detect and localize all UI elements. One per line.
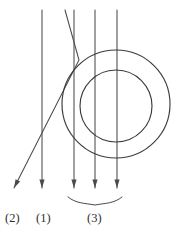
label-2: (2) [5, 211, 20, 225]
arrowhead-icon-ray-2 [14, 179, 20, 188]
label-1: (1) [36, 211, 51, 225]
arrowhead-icon-ray-1 [39, 180, 44, 189]
inner-circle [80, 70, 152, 142]
ray-diagram-figure: (2)(1)(3) [0, 0, 176, 235]
ray-path-ray-2 [14, 10, 79, 188]
label-3: (3) [87, 211, 102, 225]
arrowhead-icon-ray-5 [114, 180, 119, 189]
ray-bundle [14, 10, 120, 188]
group-brace-icon [68, 197, 122, 205]
concentric-lens-circles [62, 50, 170, 158]
arrowhead-icon-ray-3 [71, 180, 76, 189]
ray-diagram-canvas: (2)(1)(3) [0, 0, 176, 235]
figure-labels: (2)(1)(3) [5, 211, 102, 225]
arrowhead-icon-ray-4 [92, 180, 97, 189]
